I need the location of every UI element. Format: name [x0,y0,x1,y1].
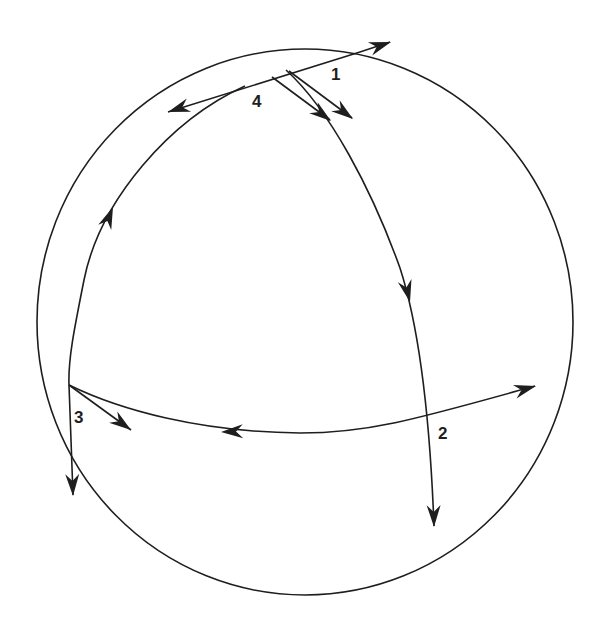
vertex-label-1: 1 [331,66,340,83]
arrow-equator-right-icon [513,379,538,398]
sphere-diagram: 1 4 3 2 [0,0,599,626]
arrow-vector-4-icon [309,102,335,126]
arrow-equator-left-icon [221,424,243,439]
equator [69,385,535,433]
vertex-label-2: 2 [438,425,447,442]
arrow-right-meridian-down-icon [398,279,417,304]
arrow-left-meridian-up-icon [98,204,119,230]
top-tangent-line [168,42,390,112]
curve-group [69,42,535,526]
sphere-outline [37,49,573,595]
diagram-canvas [0,0,599,626]
vertex-label-3: 3 [74,409,83,426]
arrow-top-right-icon [368,35,393,55]
arrow-vector-1-icon [331,100,357,124]
right-meridian [286,70,434,526]
vertex-label-4: 4 [252,93,261,110]
arrow-top-left-icon [166,99,191,119]
arrow-vector-3-icon [109,411,135,435]
left-meridian [69,86,245,495]
